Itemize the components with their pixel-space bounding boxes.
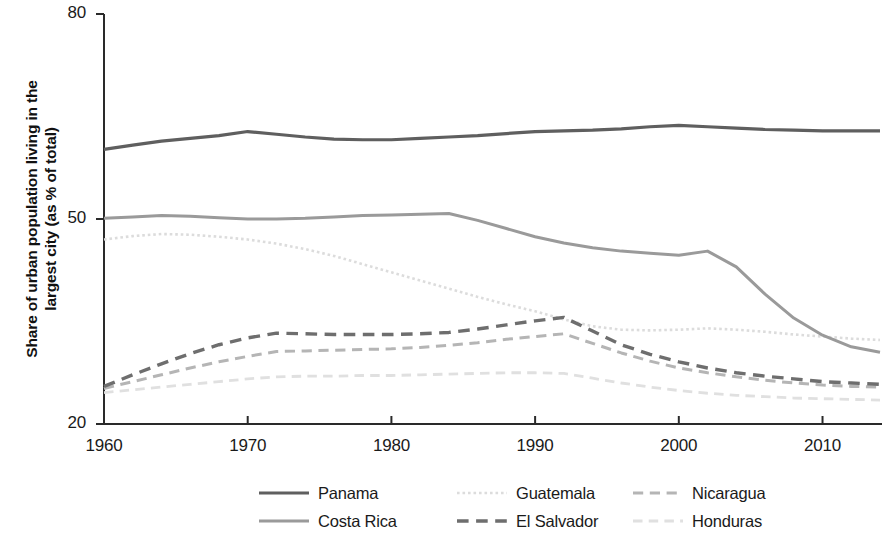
- legend-item-honduras[interactable]: Honduras: [632, 509, 762, 533]
- line-chart-plot-area: [0, 0, 882, 539]
- legend-line-swatch: [456, 514, 508, 528]
- legend-line-swatch: [456, 486, 508, 500]
- series-line-panama: [104, 125, 880, 149]
- legend-label: Panama: [318, 484, 378, 503]
- legend-item-costa-rica[interactable]: Costa Rica: [258, 509, 397, 533]
- series-line-guatemala: [104, 234, 880, 340]
- legend-line-swatch: [258, 486, 310, 500]
- legend-item-panama[interactable]: Panama: [258, 481, 378, 505]
- legend-item-el-salvador[interactable]: El Salvador: [456, 509, 598, 533]
- series-line-el-salvador: [104, 317, 880, 386]
- legend-line-swatch: [632, 514, 684, 528]
- chart-legend: PanamaCosta RicaGuatemalaEl SalvadorNica…: [258, 481, 858, 539]
- legend-label: Guatemala: [516, 484, 595, 503]
- legend-line-swatch: [632, 486, 684, 500]
- legend-label: El Salvador: [516, 512, 598, 531]
- legend-line-swatch: [258, 514, 310, 528]
- legend-item-guatemala[interactable]: Guatemala: [456, 481, 595, 505]
- legend-label: Honduras: [692, 512, 762, 531]
- legend-item-nicaragua[interactable]: Nicaragua: [632, 481, 765, 505]
- legend-label: Nicaragua: [692, 484, 765, 503]
- legend-label: Costa Rica: [318, 512, 397, 531]
- chart-figure: Share of urban population living in the …: [0, 0, 882, 539]
